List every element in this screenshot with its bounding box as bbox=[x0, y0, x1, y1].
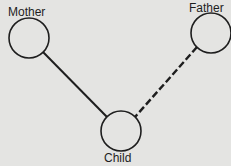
family-diagram: Mother Father Child bbox=[0, 0, 231, 166]
label-child: Child bbox=[104, 152, 131, 164]
edge-father-child bbox=[135, 47, 197, 117]
node-child bbox=[101, 111, 141, 151]
label-father: Father bbox=[189, 2, 224, 14]
node-mother bbox=[9, 18, 49, 58]
edge-mother-child bbox=[43, 52, 107, 117]
node-father bbox=[191, 13, 231, 53]
diagram-canvas bbox=[0, 0, 231, 166]
label-mother: Mother bbox=[8, 6, 45, 18]
